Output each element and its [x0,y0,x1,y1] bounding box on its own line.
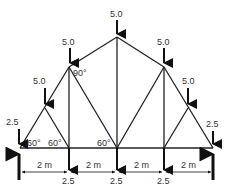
dimension-label: 2 m [37,160,52,170]
diagonal-left-inner [69,67,117,148]
dimension-label: 2 m [86,160,101,170]
load-label: 5.0 [33,76,46,86]
dimension-label: 2 m [181,160,196,170]
load-label: 2.5 [157,176,170,186]
load-label: 2.5 [110,176,123,186]
load-label: 5.0 [157,37,170,47]
angle-label: 60° [27,138,41,148]
load-label: 2.5 [206,119,219,129]
top-loads: 5.0 5.0 5.0 5.0 5.0 [33,9,195,104]
angle-label: 60° [48,138,62,148]
truss-diagram: 5.0 5.0 5.0 5.0 5.0 2.5 2.5 2.5 2.5 2.5 … [0,0,234,195]
load-label: 5.0 [110,9,123,19]
angle-label: 60° [97,138,111,148]
diagonal-right-inner [117,67,164,148]
load-label: 2.5 [62,176,75,186]
top-chord-left-upper [69,37,117,67]
bottom-loads: 2.5 2.5 2.5 [62,148,170,186]
load-label: 2.5 [6,117,19,127]
load-label: 5.0 [62,37,75,47]
angle-label: 90° [73,68,87,78]
truss-members [20,37,213,148]
diagonal-right-outer [164,108,188,148]
load-label: 5.0 [182,76,195,86]
dimension-label: 2 m [134,160,149,170]
